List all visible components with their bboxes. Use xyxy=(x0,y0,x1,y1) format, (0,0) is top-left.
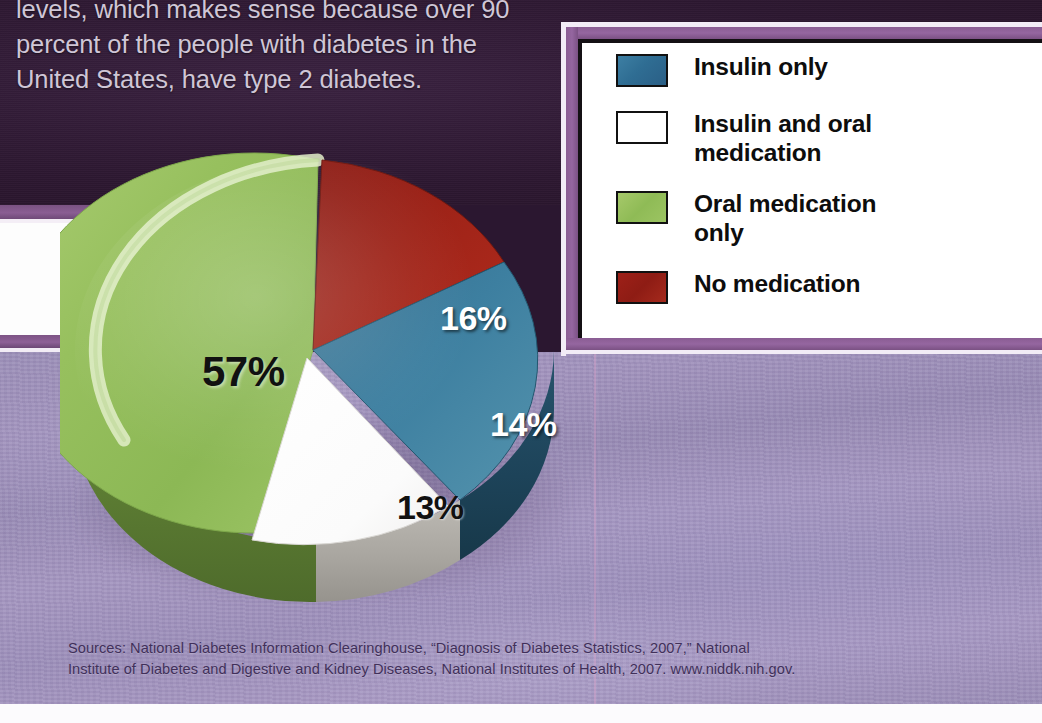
source-line-1: Sources: National Diabetes Information C… xyxy=(68,638,958,659)
red-swatch-icon xyxy=(616,271,668,304)
intro-paragraph: levels, which makes sense because over 9… xyxy=(16,0,576,97)
intro-line-2: percent of the people with diabetes in t… xyxy=(16,27,576,62)
legend-item-no-medication[interactable]: No medication xyxy=(616,269,876,304)
legend-label-line2: only xyxy=(694,218,876,247)
blue-swatch-icon xyxy=(616,54,668,87)
green-swatch-icon xyxy=(616,191,668,224)
legend-items: Insulin only Insulin and oral medication… xyxy=(616,52,876,326)
source-note: Sources: National Diabetes Information C… xyxy=(68,638,958,680)
pie-chart: 57% 16% 14% 13% xyxy=(60,110,580,610)
pie-gloss xyxy=(75,160,551,540)
legend-item-label: Insulin only xyxy=(694,52,828,81)
legend-outer-rule-bottom xyxy=(566,350,1042,354)
intro-line-3: United States, have type 2 diabetes. xyxy=(16,62,576,97)
legend-label-line1: No medication xyxy=(694,269,860,298)
legend-item-oral-only[interactable]: Oral medication only xyxy=(616,189,876,247)
legend-purple-bottom xyxy=(566,338,1042,350)
legend-label-line1: Insulin only xyxy=(694,52,828,81)
white-swatch-icon xyxy=(616,111,668,144)
legend-purple-top xyxy=(566,27,1042,39)
legend-panel: Insulin only Insulin and oral medication… xyxy=(566,22,1042,352)
legend-item-label: Oral medication only xyxy=(694,189,876,247)
legend-item-insulin-only[interactable]: Insulin only xyxy=(616,52,876,87)
legend-item-label: No medication xyxy=(694,269,860,298)
legend-label-line1: Insulin and oral xyxy=(694,109,872,138)
legend-item-insulin-and-oral[interactable]: Insulin and oral medication xyxy=(616,109,876,167)
legend-purple-left xyxy=(566,27,578,352)
infographic-page: levels, which makes sense because over 9… xyxy=(0,0,1042,723)
legend-label-line1: Oral medication xyxy=(694,189,876,218)
legend-label-line2: medication xyxy=(694,138,872,167)
intro-line-1: levels, which makes sense because over 9… xyxy=(16,0,576,27)
legend-item-label: Insulin and oral medication xyxy=(694,109,872,167)
page-bottom-margin xyxy=(0,704,1042,723)
pie-chart-svg xyxy=(60,110,580,610)
source-line-2: Institute of Diabetes and Digestive and … xyxy=(68,659,958,680)
